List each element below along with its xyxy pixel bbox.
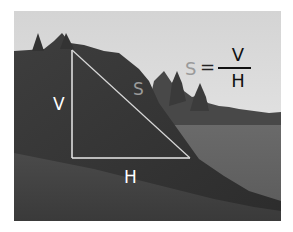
- fraction-bar: [218, 67, 251, 69]
- horizontal-label: H: [124, 169, 137, 186]
- formula-s: S: [185, 58, 196, 79]
- hillside-photo: V H S: [14, 11, 281, 221]
- photo-scene: [14, 11, 281, 221]
- formula-denominator: H: [226, 70, 250, 91]
- formula-equals: =: [200, 56, 215, 77]
- slope-formula: S = V H: [185, 44, 265, 94]
- formula-numerator: V: [226, 44, 250, 65]
- slope-label: S: [133, 81, 144, 98]
- vertical-label: V: [53, 96, 65, 113]
